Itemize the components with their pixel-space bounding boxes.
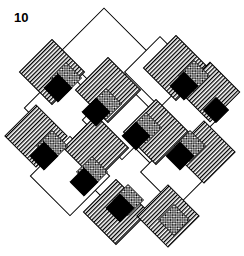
figure-container: 10 bbox=[0, 0, 244, 256]
quilt-pattern-diagram bbox=[0, 0, 244, 256]
figure-number-label: 10 bbox=[14, 11, 28, 24]
